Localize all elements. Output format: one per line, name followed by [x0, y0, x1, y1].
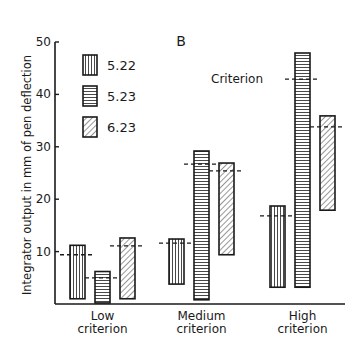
chart-title: B — [176, 33, 186, 49]
y-tick-label: 50 — [36, 35, 51, 49]
criterion-annotation: Criterion — [211, 72, 263, 86]
bar-6-23 — [320, 116, 335, 210]
legend-swatch — [83, 55, 97, 75]
bar-6-23 — [120, 238, 135, 299]
category-label: criterion — [77, 322, 127, 336]
bar-5-22 — [270, 206, 285, 287]
y-tick-label: 30 — [36, 140, 51, 154]
bar-5-23 — [95, 272, 110, 303]
category-label: High — [289, 309, 317, 323]
bar-5-23 — [295, 53, 310, 287]
y-axis-label: Integrator output in mm of pen deflectio… — [20, 55, 34, 295]
legend-label: 5.22 — [107, 58, 136, 73]
category-label: criterion — [176, 322, 226, 336]
legend-label: 5.23 — [107, 89, 136, 104]
chart: B Integrator output in mm of pen deflect… — [0, 0, 363, 348]
bar-5-22 — [70, 245, 85, 298]
category-label: Medium — [178, 309, 226, 323]
bar-5-23 — [194, 151, 209, 300]
legend-swatch — [83, 117, 97, 137]
bar-6-23 — [219, 163, 234, 255]
annotations: Criterion — [211, 72, 263, 86]
y-tick-label: 10 — [36, 245, 51, 259]
category-label: Low — [91, 309, 115, 323]
legend-label: 6.23 — [107, 120, 136, 135]
bar-5-22 — [169, 239, 184, 284]
y-tick-label: 40 — [36, 87, 51, 101]
legend-swatch — [83, 86, 97, 106]
category-labels: LowcriterionMediumcriterionHighcriterion — [77, 309, 327, 336]
legend: 5.225.236.23 — [83, 55, 136, 137]
y-tick-label: 20 — [36, 192, 51, 206]
category-label: criterion — [277, 322, 327, 336]
